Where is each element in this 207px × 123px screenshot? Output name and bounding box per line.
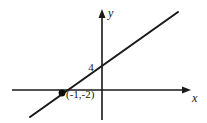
plotted-line [30, 12, 178, 117]
point-coordinate-label: (-1,-2) [66, 88, 95, 101]
y-axis-tick-label-4: 4 [88, 61, 94, 73]
x-axis-arrow-icon [182, 86, 191, 93]
y-axis-label: y [107, 6, 114, 20]
point-marker-dot [59, 90, 66, 97]
graph-figure: 4 (-1,-2) x y [0, 0, 207, 123]
y-axis-arrow-icon [99, 9, 106, 18]
x-axis-label: x [191, 91, 198, 105]
coordinate-plane-svg: 4 (-1,-2) x y [0, 0, 207, 123]
